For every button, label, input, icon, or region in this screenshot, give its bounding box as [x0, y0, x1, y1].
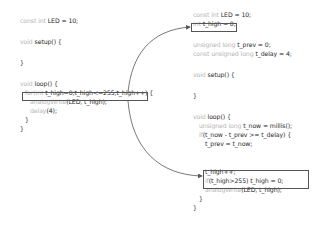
code-line: void loop() {: [20, 80, 58, 88]
keyword: void: [193, 71, 208, 78]
code-text: }: [199, 195, 203, 202]
code-text: }: [25, 116, 29, 123]
code-text: }: [20, 125, 24, 132]
code-line: }: [193, 204, 197, 212]
code-line: t_prev = t_now;: [205, 140, 252, 148]
keyword: void: [20, 38, 35, 45]
arrows-layer: [0, 0, 314, 233]
code-line: void setup() {: [193, 71, 235, 79]
code-text: loop() {: [35, 80, 58, 87]
code-line: if(t_now - t_prev >= t_delay) {: [199, 131, 291, 139]
keyword: const int: [20, 17, 48, 24]
t-high-update-box: [203, 170, 309, 189]
code-line: void loop() {: [193, 113, 231, 121]
code-line: }: [20, 125, 24, 133]
keyword: const unsigned long: [193, 50, 255, 57]
code-text: LED = 10;: [48, 17, 78, 24]
code-line: }: [193, 92, 197, 100]
code-line: const unsigned long t_delay = 4;: [193, 50, 292, 58]
keyword: delay: [30, 107, 46, 114]
code-text: LED = 10;: [221, 11, 251, 18]
code-line: }: [199, 195, 203, 203]
code-text: (t_now - t_prev >= t_delay) {: [203, 131, 291, 138]
code-text: (4);: [46, 107, 56, 114]
code-line: unsigned long t_now = millis();: [199, 122, 292, 130]
code-text: loop() {: [208, 113, 231, 120]
keyword: void: [20, 80, 35, 87]
code-text: t_now = millis();: [243, 122, 292, 129]
t-high-declaration-box: [191, 23, 237, 32]
code-text: }: [193, 92, 197, 99]
code-text: setup() {: [208, 71, 235, 78]
code-line: }: [25, 116, 29, 124]
arrow-to-update: [128, 101, 202, 176]
code-line: unsigned long t_prev = 0;: [193, 41, 271, 49]
code-text: t_delay = 4;: [255, 50, 291, 57]
for-loop-box: [22, 92, 148, 101]
code-line: void setup() {: [20, 38, 62, 46]
keyword: void: [193, 113, 208, 120]
arrow-to-declaration: [128, 27, 190, 92]
code-text: t_prev = 0;: [237, 41, 270, 48]
keyword: unsigned long: [193, 41, 237, 48]
code-text: setup() {: [35, 38, 62, 45]
code-text: }: [20, 59, 24, 66]
code-line: const int LED = 10;: [20, 17, 78, 25]
code-text: }: [193, 204, 197, 211]
code-line: }: [20, 59, 24, 67]
code-text: t_prev = t_now;: [205, 140, 252, 147]
code-line: delay(4);: [30, 107, 57, 115]
code-line: const int LED = 10;: [193, 11, 251, 19]
keyword: unsigned long: [199, 122, 243, 129]
keyword: const int: [193, 11, 221, 18]
